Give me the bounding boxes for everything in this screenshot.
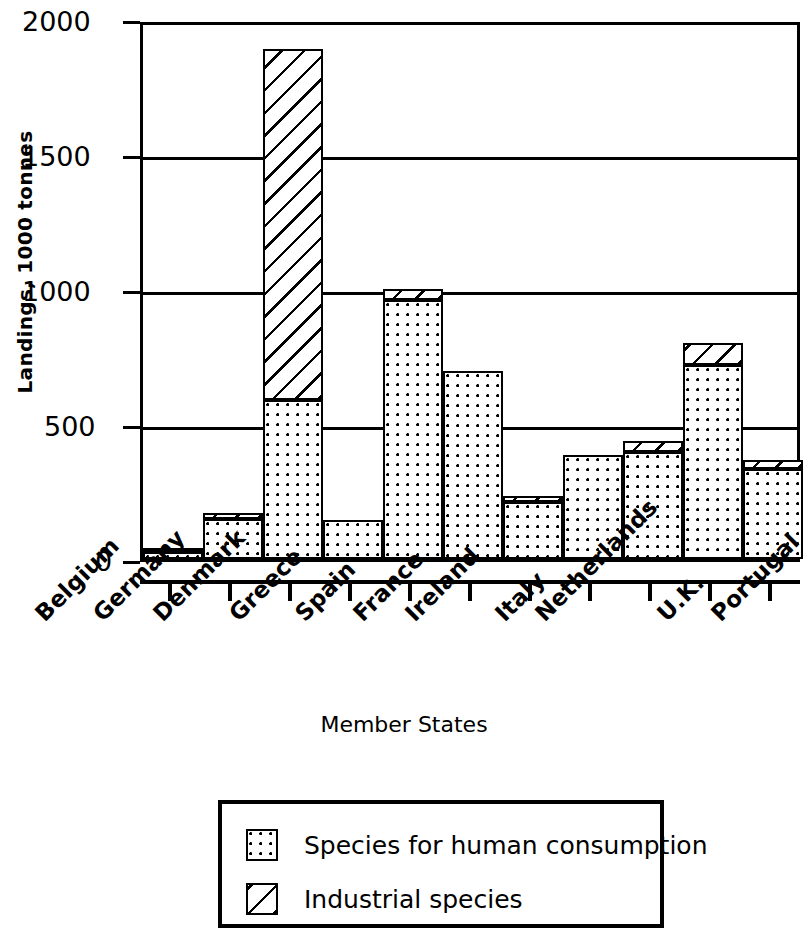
bar-uk bbox=[683, 343, 743, 559]
y-tick-label-500: 500 bbox=[44, 413, 96, 440]
gridline-1500 bbox=[143, 157, 797, 160]
legend-item-industrial: Industrial species bbox=[246, 882, 523, 916]
bar-denmark-human bbox=[263, 400, 323, 559]
x-tick-italy bbox=[588, 584, 592, 601]
bar-spain-industrial bbox=[383, 289, 443, 300]
bar-spain bbox=[383, 289, 443, 559]
y-tick-label-2000: 2000 bbox=[22, 8, 91, 35]
bar-france-human bbox=[443, 371, 503, 559]
hatch-swatch-icon bbox=[246, 883, 278, 915]
legend-label-industrial: Industrial species bbox=[304, 885, 523, 914]
legend: Species for human consumption Industrial… bbox=[218, 800, 664, 928]
bar-denmark-industrial bbox=[263, 49, 323, 400]
x-axis-title: Member States bbox=[0, 712, 808, 737]
bar-portugal-industrial bbox=[743, 460, 803, 469]
x-tick-greece bbox=[348, 584, 352, 601]
plot-area bbox=[140, 22, 800, 562]
y-tick-mark-500 bbox=[123, 426, 140, 429]
x-tick-portugal bbox=[768, 584, 772, 601]
bar-greece bbox=[323, 520, 383, 559]
y-tick-label-1000: 1000 bbox=[22, 278, 91, 305]
x-tick-denmark bbox=[288, 584, 292, 601]
y-tick-mark-1000 bbox=[123, 291, 140, 294]
x-category-uk: U.K. bbox=[652, 569, 709, 626]
bar-ireland bbox=[503, 496, 563, 559]
bar-france bbox=[443, 371, 503, 559]
bar-uk-industrial bbox=[683, 343, 743, 365]
bar-germany-industrial bbox=[203, 513, 263, 519]
bar-denmark bbox=[263, 49, 323, 559]
bar-uk-human bbox=[683, 365, 743, 559]
landings-stacked-bar-chart: Landings, 1000 tonnes 2000 1500 1000 500… bbox=[0, 0, 808, 928]
bar-netherlands-industrial bbox=[623, 441, 683, 452]
y-axis-title: Landings, 1000 tonnes bbox=[13, 62, 37, 462]
dots-swatch-icon bbox=[246, 829, 278, 861]
y-tick-label-1500: 1500 bbox=[22, 143, 91, 170]
bar-spain-human bbox=[383, 300, 443, 559]
bar-ireland-human bbox=[503, 502, 563, 559]
bar-ireland-industrial bbox=[503, 496, 563, 502]
y-tick-mark-1500 bbox=[123, 156, 140, 159]
x-tick-germany bbox=[228, 584, 232, 601]
legend-item-human: Species for human consumption bbox=[246, 828, 708, 862]
bar-greece-human bbox=[323, 520, 383, 559]
y-tick-mark-2000 bbox=[123, 21, 140, 24]
gridline-1000 bbox=[143, 292, 797, 295]
x-tick-france bbox=[468, 584, 472, 601]
legend-label-human: Species for human consumption bbox=[304, 831, 708, 860]
x-tick-netherlands bbox=[648, 584, 652, 601]
